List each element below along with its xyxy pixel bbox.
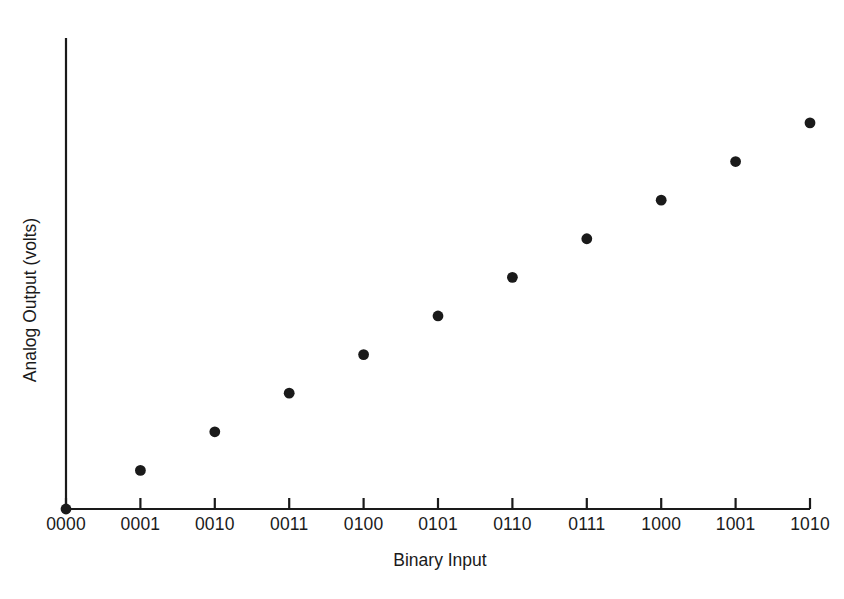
- x-axis-tick-labels: 0000000100100011010001010110011110001001…: [46, 514, 830, 534]
- data-point: [805, 118, 816, 129]
- x-axis-tick-label: 0011: [270, 514, 308, 534]
- x-axis-tick-label: 0000: [46, 514, 86, 534]
- data-point: [433, 311, 444, 322]
- x-axis-tick-label: 0101: [418, 514, 458, 534]
- data-point: [135, 465, 146, 476]
- y-axis-title: Analog Output (volts): [20, 218, 40, 382]
- x-axis-tick-label: 1000: [641, 514, 681, 534]
- data-point: [358, 349, 369, 360]
- data-point: [284, 388, 295, 399]
- x-axis-tick-label: 0100: [344, 514, 384, 534]
- data-point: [209, 426, 220, 437]
- data-point: [581, 233, 592, 244]
- scatter-plot: 0000000100100011010001010110011110001001…: [0, 0, 844, 599]
- x-axis-title: Binary Input: [393, 550, 487, 570]
- x-axis-tick-label: 0001: [121, 514, 161, 534]
- x-axis-tick-label: 0010: [195, 514, 235, 534]
- x-axis-tick-label: 1010: [790, 514, 830, 534]
- data-point: [656, 195, 667, 206]
- x-axis-tick-label: 1001: [716, 514, 756, 534]
- data-point: [507, 272, 518, 283]
- data-points: [61, 118, 816, 515]
- data-point: [61, 504, 72, 515]
- x-axis-tick-label: 0110: [493, 514, 531, 534]
- data-point: [730, 156, 741, 167]
- x-axis-ticks: [66, 498, 810, 509]
- x-axis-tick-label: 0111: [568, 514, 605, 534]
- chart-figure: 0000000100100011010001010110011110001001…: [0, 0, 844, 599]
